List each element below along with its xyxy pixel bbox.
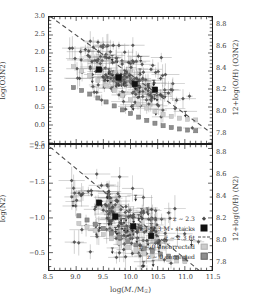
- legend-item-1: z ∼ 2.3 M⋆ stacks: [118, 223, 210, 232]
- legend-marker-light-square-icon: [198, 243, 210, 251]
- xaxis-title: log(M⋆/M☉): [48, 285, 213, 294]
- ytick-left-bottom-3: −2.0: [12, 144, 45, 151]
- ytick-left-bottom-2: −1.5: [12, 179, 45, 186]
- figure-root: −0.50.00.51.01.52.02.53.08.88.68.48.28.0…: [0, 0, 262, 306]
- legend-label-3: z ∼ 0 uncorrected: [139, 243, 195, 250]
- ytick-left-top-5: 2.0: [12, 49, 45, 56]
- plot-panel-top: [48, 16, 213, 144]
- ytick-right-top-5: 7.8: [216, 130, 234, 137]
- legend-label-1: z ∼ 2.3 M⋆ stacks: [140, 225, 195, 232]
- legend-item-3: z ∼ 0 uncorrected: [118, 242, 210, 251]
- ytick-left-top-3: 1.0: [12, 86, 45, 93]
- xtick-3: 10.0: [117, 274, 145, 281]
- legend-label-0: z ∼ 2.3: [173, 215, 195, 222]
- xtick-6: 11.5: [199, 274, 227, 281]
- yaxis-title-right-bottom: 12+log(O/H) (N2): [231, 173, 240, 243]
- yaxis-title-left-top: log(O3N2): [0, 50, 7, 112]
- ytick-left-top-2: 0.5: [12, 104, 45, 111]
- xtick-4: 10.5: [144, 274, 172, 281]
- legend-marker-diamond-icon: [198, 215, 210, 223]
- xtick-5: 11.0: [172, 274, 200, 281]
- legend-item-0: z ∼ 2.3: [118, 214, 210, 223]
- yaxis-title-left-bottom: log(N2): [0, 177, 7, 239]
- xtick-2: 9.5: [89, 274, 117, 281]
- ytick-left-bottom-1: −1.0: [12, 215, 45, 222]
- legend: z ∼ 2.3z ∼ 2.3 M⋆ stacksz ∼ 2.3 fitz ∼ 0…: [118, 214, 210, 261]
- legend-marker-big-square-icon: [198, 224, 210, 232]
- legend-item-4: z ∼ 0 corrected: [118, 252, 210, 261]
- legend-marker-dark-square-icon: [198, 252, 210, 260]
- ytick-left-bottom-0: −0.5: [12, 250, 45, 257]
- legend-label-2: z ∼ 2.3 fit: [165, 234, 195, 241]
- ytick-left-top-6: 2.5: [12, 31, 45, 38]
- plot-canvas-top: [49, 17, 212, 143]
- legend-marker-dashed-line-icon: [198, 233, 210, 241]
- legend-label-4: z ∼ 0 corrected: [147, 253, 195, 260]
- xtick-1: 9.0: [62, 274, 90, 281]
- legend-item-2: z ∼ 2.3 fit: [118, 233, 210, 242]
- yaxis-title-right-top: 12+log(O/H) (O3N2): [231, 46, 240, 116]
- xtick-0: 8.5: [34, 274, 62, 281]
- ytick-left-top-7: 3.0: [12, 13, 45, 20]
- ytick-left-top-1: 0.0: [12, 122, 45, 129]
- ytick-right-bottom-5: 7.8: [216, 259, 234, 266]
- ytick-left-top-4: 1.5: [12, 67, 45, 74]
- ytick-right-top-0: 8.8: [216, 21, 234, 28]
- ytick-right-bottom-0: 8.8: [216, 149, 234, 156]
